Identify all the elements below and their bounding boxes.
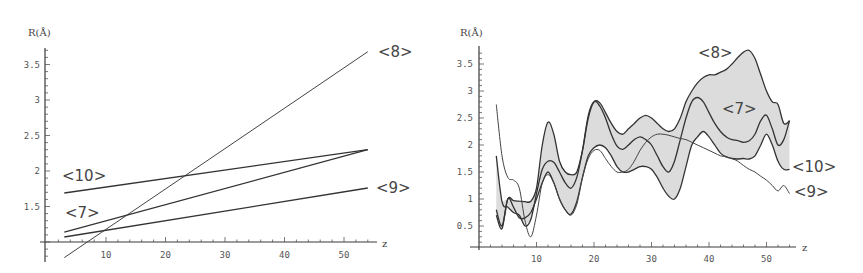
left-x-tick-label: 20	[160, 250, 171, 260]
right-y-tick-label: 0.5	[457, 221, 473, 231]
left-label-10: <10>	[62, 167, 106, 185]
right-label-10: <10>	[792, 158, 836, 176]
left-label-9: <9>	[376, 179, 411, 197]
left-chart: 1.522.533.51020304050 R(Å) z <8> <10> <7…	[0, 0, 430, 273]
right-x-tick-label: 30	[646, 254, 657, 264]
right-chart: 0.511.522.533.51020304050 R(Å) z <8> <7>…	[430, 0, 863, 273]
left-y-tick-label: 3	[35, 95, 40, 105]
left-series-group	[64, 52, 368, 258]
right-x-tick-label: 10	[531, 254, 542, 264]
right-band-area	[496, 51, 789, 229]
right-label-9: <9>	[794, 183, 829, 201]
right-label-8: <8>	[698, 44, 733, 62]
left-series-line	[64, 150, 368, 193]
left-x-tick-label: 40	[279, 250, 290, 260]
left-series-line	[64, 52, 368, 258]
right-x-axis-title: z	[802, 242, 807, 253]
left-series-line	[64, 150, 368, 232]
left-x-tick-label: 10	[101, 250, 112, 260]
right-y-axis-title: R(Å)	[460, 27, 483, 38]
right-y-tick-label: 3.5	[457, 59, 473, 69]
right-chart-panel: 0.511.522.533.51020304050 R(Å) z <8> <7>…	[430, 0, 863, 273]
left-label-8: <8>	[378, 43, 413, 61]
right-y-tick-label: 2	[468, 140, 473, 150]
left-y-tick-label: 2	[35, 166, 40, 176]
left-chart-panel: 1.522.533.51020304050 R(Å) z <8> <10> <7…	[0, 0, 430, 273]
left-series-line	[64, 188, 368, 237]
left-y-axis-title: R(Å)	[28, 27, 51, 38]
right-label-7: <7>	[722, 100, 757, 118]
left-x-tick-label: 30	[220, 250, 231, 260]
left-axes: 1.522.533.51020304050	[24, 48, 377, 262]
right-x-tick-label: 40	[704, 254, 715, 264]
left-y-tick-label: 2.5	[24, 131, 40, 141]
right-y-tick-label: 1	[468, 194, 473, 204]
right-y-tick-label: 3	[468, 86, 473, 96]
right-y-tick-label: 1.5	[457, 167, 473, 177]
left-x-tick-label: 50	[339, 250, 350, 260]
right-x-tick-label: 20	[589, 254, 600, 264]
left-label-7: <7>	[65, 204, 100, 222]
right-shaded-band	[496, 51, 789, 229]
left-y-tick-label: 3.5	[24, 60, 40, 70]
right-y-tick-label: 2.5	[457, 113, 473, 123]
right-x-tick-label: 50	[761, 254, 772, 264]
left-y-tick-label: 1.5	[24, 202, 40, 212]
left-x-axis-title: z	[382, 238, 387, 249]
